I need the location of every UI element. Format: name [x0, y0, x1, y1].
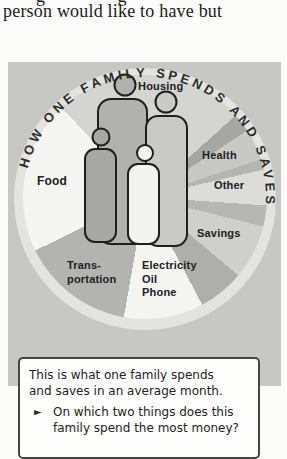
label-housing: Housing — [138, 80, 183, 94]
label-food: Food — [37, 175, 67, 189]
callout-question-line2: family spend the most money? — [53, 420, 239, 436]
question-callout-box: This is what one family spends and saves… — [18, 357, 260, 459]
label-transportation-line2: portation — [67, 273, 116, 287]
family-figures — [85, 75, 187, 247]
label-savings: Savings — [197, 227, 241, 241]
callout-intro-line2: and saves in an average month. — [29, 383, 258, 399]
callout-intro-line1: This is what one family spends — [29, 367, 258, 383]
label-transportation: Trans- portation — [67, 259, 116, 286]
label-health: Health — [202, 149, 237, 163]
label-transportation-line1: Trans- — [67, 259, 116, 273]
label-electricity-oil-phone: Electricity Oil Phone — [142, 259, 197, 300]
label-electricity-line1: Electricity — [142, 259, 197, 273]
callout-question-row: ► On which two things does this family s… — [29, 404, 258, 436]
arrow-bullet-icon: ► — [29, 404, 53, 436]
label-electricity-line2: Oil — [142, 273, 197, 287]
label-electricity-line3: Phone — [142, 286, 197, 300]
label-other: Other — [214, 179, 244, 193]
callout-question-line1: On which two things does this — [53, 404, 239, 420]
callout-question: On which two things does this family spe… — [53, 404, 239, 436]
